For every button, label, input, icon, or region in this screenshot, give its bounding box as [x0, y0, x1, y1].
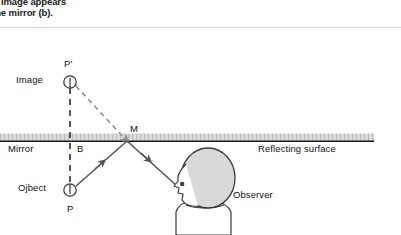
reflected-ray: [127, 141, 176, 185]
mirror-backing-band: [0, 134, 374, 142]
mirror-reflection-figure: intersect. The image appears behind the …: [0, 0, 401, 235]
label-reflecting-surface: Reflecting surface: [258, 143, 336, 154]
observer-eye: [180, 182, 184, 186]
label-mirror: Mirror: [8, 143, 33, 154]
label-normal-foot: B: [77, 143, 83, 154]
label-image-point: P': [64, 58, 72, 69]
virtual-ray-dashed: [76, 86, 127, 141]
label-image: Image: [16, 74, 43, 85]
ray-diagram-canvas: [0, 0, 401, 235]
label-observer: Observer: [233, 189, 273, 200]
label-object: Ojbect: [18, 182, 46, 193]
reflected-ray-arrow: [141, 153, 150, 161]
incident-ray-arrow: [95, 161, 104, 169]
observer-figure: [174, 148, 235, 235]
label-object-point: P: [67, 203, 73, 214]
label-mirror-point: M: [130, 123, 138, 134]
